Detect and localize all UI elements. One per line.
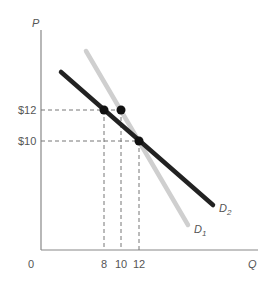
x-tick-8: 8 bbox=[101, 258, 107, 270]
x-tick-12: 12 bbox=[133, 258, 145, 270]
point-8-12 bbox=[100, 106, 109, 115]
y-tick-10: $10 bbox=[18, 135, 36, 147]
y-axis-label: P bbox=[32, 17, 40, 29]
d2-label: D2 bbox=[219, 202, 232, 217]
demand-elasticity-chart: P Q 0 $12 $10 8 10 12 D2 D1 bbox=[0, 0, 278, 284]
point-10-12 bbox=[117, 106, 126, 115]
d1-label: D1 bbox=[194, 223, 206, 238]
guide-lines bbox=[41, 110, 139, 250]
x-tick-10: 10 bbox=[115, 258, 127, 270]
y-tick-12: $12 bbox=[18, 104, 36, 116]
x-axis-label: Q bbox=[248, 258, 257, 270]
origin-label: 0 bbox=[28, 258, 34, 270]
point-12-10 bbox=[135, 137, 144, 146]
